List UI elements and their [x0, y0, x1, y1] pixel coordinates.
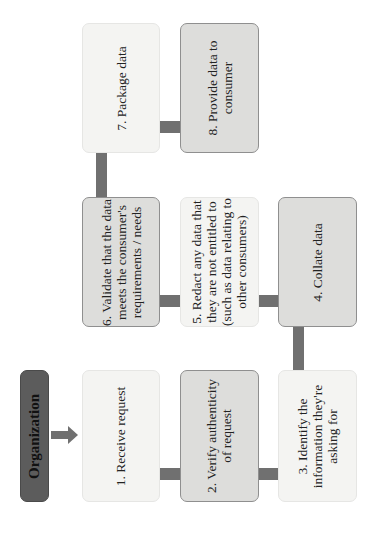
connector-7-8 [160, 121, 180, 133]
step-6-box: 6. Validate that the data meets the cons… [82, 197, 160, 327]
step-7-box: 7. Package data [82, 23, 160, 153]
step-7-label: 7. Package data [114, 46, 129, 130]
step-3-box: 3. Identify the information they're aski… [278, 370, 357, 502]
step-8-label: 8. Provide data to consumer [205, 40, 235, 135]
step-6-label: 6. Validate that the data meets the cons… [99, 199, 144, 326]
connector-6-7 [96, 153, 107, 197]
step-5-box: 5. Redact any data that they are not ent… [180, 197, 259, 327]
connector-3-4 [293, 327, 304, 370]
organization-box: Organization [20, 370, 49, 502]
step-2-box: 2. Verify authenticity of request [180, 370, 259, 502]
connector-1-2 [160, 468, 180, 480]
arrow-right-icon [51, 425, 79, 445]
step-4-label: 4. Collate data [310, 223, 325, 301]
step-3-label: 3. Identify the information they're aski… [295, 384, 340, 487]
connector-5-6 [160, 295, 180, 307]
step-8-box: 8. Provide data to consumer [180, 23, 259, 153]
step-4-box: 4. Collate data [278, 197, 357, 327]
step-2-label: 2. Verify authenticity of request [205, 379, 235, 493]
step-1-label: 1. Receive request [114, 386, 129, 485]
connector-4-5 [259, 295, 278, 307]
organization-label: Organization [27, 394, 42, 479]
step-5-label: 5. Redact any data that they are not ent… [190, 198, 250, 326]
step-1-box: 1. Receive request [82, 370, 160, 502]
connector-2-3 [259, 468, 278, 480]
